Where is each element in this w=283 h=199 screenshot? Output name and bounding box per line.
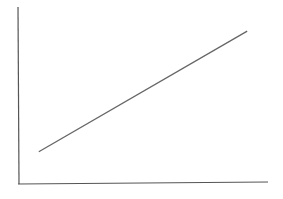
x-axis bbox=[18, 182, 268, 184]
data-line bbox=[39, 31, 247, 152]
line-chart bbox=[0, 0, 283, 199]
y-axis bbox=[18, 7, 19, 184]
